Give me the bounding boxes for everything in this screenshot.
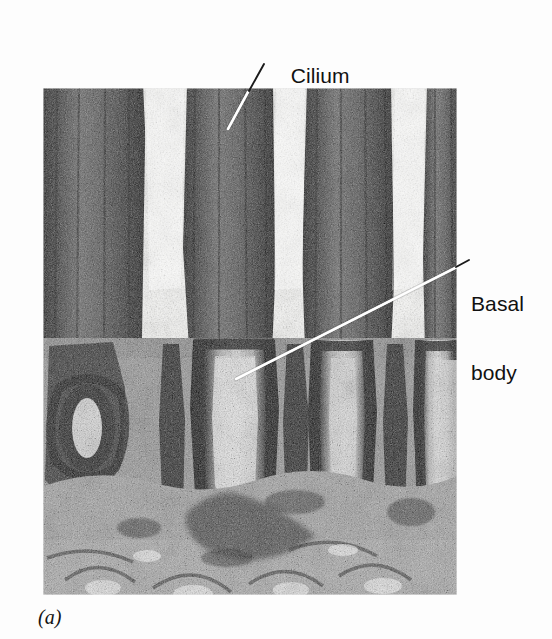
cilium-label-text: Cilium <box>291 64 350 87</box>
annotation-label-cilium: Cilium <box>267 41 350 110</box>
cilium-leader-outside <box>249 64 264 91</box>
basal-body-leader-outside <box>456 260 469 267</box>
annotation-label-basal-body: Basal body <box>471 246 524 430</box>
micrograph-canvas <box>43 88 457 595</box>
figure-panel-a: Cilium Basal body (a) <box>0 0 552 639</box>
basal-body-label-line2: body <box>471 361 524 384</box>
electron-micrograph-image <box>43 88 457 595</box>
basal-body-label-line1: Basal <box>471 292 524 315</box>
figure-caption: (a) <box>38 606 61 629</box>
